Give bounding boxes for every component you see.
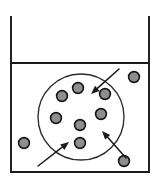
particle [119,156,130,167]
particle [19,138,30,149]
particle [75,120,86,131]
particle [129,72,140,83]
particle [100,89,111,100]
particle [96,109,107,120]
particle [73,83,84,94]
diagram-canvas [0,0,161,187]
particle [75,138,86,149]
particle [51,113,62,124]
particle [57,91,68,102]
figure-root [0,0,161,187]
